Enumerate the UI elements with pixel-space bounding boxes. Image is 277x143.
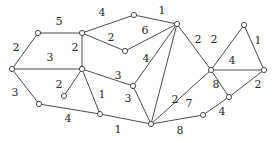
edge-g-m	[177, 24, 211, 70]
node-d	[79, 66, 84, 71]
weight-label-mn: 2	[211, 33, 218, 46]
weight-label-bi: 3	[12, 86, 19, 99]
node-o	[261, 67, 266, 72]
weight-label-dh: 2	[56, 78, 63, 91]
node-n	[241, 22, 246, 27]
edge-d-k	[82, 69, 133, 86]
weight-label-gm: 2	[195, 33, 202, 46]
weight-label-dj: 1	[99, 88, 106, 101]
node-l	[148, 121, 153, 126]
node-e	[131, 12, 136, 17]
node-a	[35, 30, 40, 35]
weight-label-po: 2	[255, 78, 262, 91]
node-m	[208, 67, 213, 72]
weight-label-no: 1	[255, 34, 262, 47]
weight-label-lm: 7	[186, 97, 193, 110]
edge-k-l	[133, 86, 151, 124]
node-b	[9, 66, 14, 71]
node-h	[61, 93, 66, 98]
weight-label-ab: 2	[13, 41, 20, 54]
edge-c-f	[82, 33, 125, 51]
weight-label-dk: 3	[115, 69, 122, 82]
graph-edges	[12, 15, 264, 124]
weight-label-gl: 2	[172, 93, 179, 106]
weight-label-ac: 5	[56, 15, 63, 28]
node-g	[174, 21, 179, 26]
node-j	[97, 111, 102, 116]
weight-label-cd: 2	[72, 41, 79, 54]
weight-label-ce: 4	[99, 6, 106, 19]
node-f	[122, 48, 127, 53]
weight-label-ij: 4	[65, 112, 72, 125]
edge-d-j	[82, 69, 100, 114]
edge-g-l	[151, 24, 177, 124]
weight-label-mp: 8	[213, 78, 220, 91]
edge-e-g	[134, 15, 177, 24]
weight-label-abd: 3	[47, 51, 54, 64]
weight-label-eg: 1	[159, 4, 166, 17]
node-p	[226, 94, 231, 99]
weighted-planar-graph: 52324261221434221334178824	[0, 0, 277, 143]
edge-f-g	[125, 24, 177, 51]
graph-nodes	[9, 12, 266, 126]
node-i	[36, 101, 41, 106]
weight-label-fg: 6	[142, 24, 149, 37]
weight-label-mno: 4	[229, 54, 236, 67]
edge-j-l	[100, 114, 151, 124]
node-k	[130, 83, 135, 88]
weight-label-qp: 4	[219, 105, 226, 118]
node-c	[79, 30, 84, 35]
edge-g-k	[133, 24, 177, 86]
weight-label-dkl: 3	[125, 92, 132, 105]
edge-n-o	[244, 25, 264, 70]
node-q	[200, 112, 205, 117]
weight-label-gk: 4	[143, 52, 150, 65]
weight-label-lq: 8	[177, 124, 184, 137]
weight-label-jl: 1	[115, 123, 122, 136]
weight-label-cf: 2	[108, 31, 115, 44]
edge-d-h	[64, 69, 82, 96]
